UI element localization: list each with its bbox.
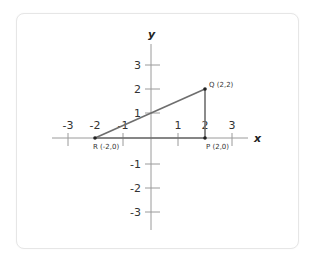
y-axis-label: y bbox=[148, 28, 156, 41]
y-tick-label: -2 bbox=[130, 182, 141, 195]
x-tick-label: -3 bbox=[63, 119, 74, 132]
point-label-p: P (2,0) bbox=[206, 143, 229, 151]
x-axis-label: x bbox=[253, 132, 262, 145]
point-r bbox=[93, 136, 97, 140]
x-tick-label: 1 bbox=[175, 119, 182, 132]
point-p bbox=[203, 136, 207, 140]
y-tick-label: -1 bbox=[130, 158, 141, 171]
y-tick-label: -3 bbox=[130, 206, 141, 219]
x-tick-label: -2 bbox=[90, 119, 101, 132]
x-tick-label: 3 bbox=[229, 119, 236, 132]
triangle-pqr bbox=[95, 89, 205, 138]
y-tick-label: 3 bbox=[134, 59, 141, 72]
point-q bbox=[203, 87, 207, 91]
coordinate-plane: -3 -2 -1 1 2 3 3 2 1 -1 -2 -3 x y Q (2,2… bbox=[0, 0, 314, 258]
y-tick-label: 2 bbox=[134, 83, 141, 96]
point-label-r: R (-2,0) bbox=[93, 143, 119, 151]
point-label-q: Q (2,2) bbox=[209, 81, 234, 89]
segment-rq bbox=[95, 89, 205, 138]
